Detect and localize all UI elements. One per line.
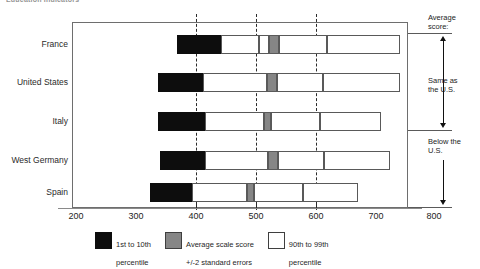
legend-item-average-score: Average scale score +/-2 standard errors [165, 231, 254, 269]
segment-average [264, 112, 271, 131]
cut-off-title: Education Indicators [6, 0, 79, 3]
legend-label-line2: percentile [116, 258, 151, 267]
legend-label: 90th to 99th percentile [289, 231, 329, 269]
x-axis-line [58, 208, 422, 209]
annotation-rule-middle [408, 130, 452, 131]
segment-p75-p90 [254, 183, 303, 202]
x-tick-label-200: 200 [68, 211, 83, 221]
legend-label-line2: +/-2 standard errors [186, 258, 254, 267]
x-tick-label-800: 800 [426, 211, 441, 221]
annotation-average-score-line2: score: [428, 22, 456, 31]
segment-p75-p90 [277, 73, 323, 92]
arrow-shaft-same-as-us [443, 41, 444, 123]
x-tick-label-700: 700 [368, 211, 383, 221]
segment-p1-p10 [160, 151, 205, 170]
segment-p75-p90 [279, 35, 327, 54]
arrow-head-up-same-as-us [440, 36, 446, 41]
segment-p90-p99 [320, 112, 381, 131]
annotation-below-us: Below the U.S. [428, 137, 461, 155]
legend-swatch-white-icon [268, 232, 285, 249]
segment-p1-p10 [150, 183, 192, 202]
chart-row-italy: Italy [0, 103, 480, 139]
segment-p1-p10 [158, 112, 205, 131]
segment-average [269, 35, 279, 54]
arrow-head-down-below-us [440, 200, 446, 205]
annotation-rule-top [408, 33, 452, 34]
segment-p90-p99 [303, 183, 358, 202]
segment-p90-p99 [323, 73, 400, 92]
legend-label-line1: Average scale score [186, 240, 254, 249]
segment-p25-avg [259, 35, 269, 54]
legend-swatch-gray-icon [165, 232, 182, 249]
x-tick-label-600: 600 [308, 211, 323, 221]
arrow-head-down-same-as-us [440, 123, 446, 128]
x-tick-600 [316, 202, 317, 208]
legend-item-first-decile: 1st to 10th percentile [95, 231, 151, 269]
annotation-average-score-line1: Average [428, 13, 456, 22]
chart-row-france: France [0, 26, 480, 62]
segment-p10-p25 [221, 35, 259, 54]
segment-p1-p10 [158, 73, 203, 92]
arrow-shaft-below-us [443, 160, 444, 201]
segment-p10-p25 [192, 183, 247, 202]
chart-row-west-germany: West Germany [0, 142, 480, 178]
segment-average [267, 73, 277, 92]
chart-row-united-states: United States [0, 64, 480, 100]
annotation-average-score: Average score: [428, 13, 456, 31]
x-tick-label-500: 500 [248, 211, 263, 221]
chart-page: Education Indicators France United State… [0, 0, 480, 269]
segment-p75-p90 [278, 151, 324, 170]
chart-legend: 1st to 10th percentile Average scale sco… [95, 231, 328, 269]
annotation-below-us-line1: Below the [428, 137, 461, 146]
legend-label-line2: percentile [289, 258, 329, 267]
segment-average [268, 151, 278, 170]
segment-p90-p99 [327, 35, 400, 54]
chart-row-spain: Spain [0, 174, 480, 210]
annotation-rule-bottom [408, 207, 452, 208]
row-label: West Germany [11, 142, 68, 178]
row-label: Spain [46, 174, 68, 210]
segment-p10-p25 [205, 151, 268, 170]
row-label: Italy [52, 103, 68, 139]
x-tick-label-400: 400 [188, 211, 203, 221]
segment-p1-p10 [177, 35, 221, 54]
row-label: United States [17, 64, 68, 100]
segment-p90-p99 [324, 151, 390, 170]
legend-label-line1: 1st to 10th [116, 240, 151, 249]
x-tick-label-300: 300 [128, 211, 143, 221]
segment-p75-p90 [271, 112, 320, 131]
segment-p10-p25 [203, 73, 267, 92]
annotation-below-us-line2: U.S. [428, 146, 461, 155]
segment-p10-p25 [205, 112, 264, 131]
x-tick-400 [196, 202, 197, 208]
legend-label: 1st to 10th percentile [116, 231, 151, 269]
legend-swatch-black-icon [95, 232, 112, 249]
legend-label-line1: 90th to 99th [289, 240, 329, 249]
x-tick-500 [256, 202, 257, 208]
legend-label: Average scale score +/-2 standard errors [186, 231, 254, 269]
legend-item-top-decile: 90th to 99th percentile [268, 231, 329, 269]
segment-average [247, 183, 254, 202]
row-label: France [42, 26, 68, 62]
